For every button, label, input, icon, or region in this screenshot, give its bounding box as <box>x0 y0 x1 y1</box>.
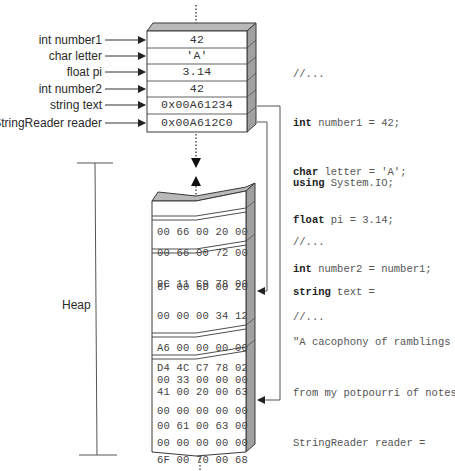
heap-label: Heap <box>62 298 91 312</box>
stack-cell-number1: 42 <box>147 33 247 46</box>
stack-label-pi: float pi <box>67 65 102 79</box>
stack-label-text: string text <box>50 98 102 112</box>
stack-label-reader: StringReader reader <box>0 116 102 130</box>
heap-bracket-line <box>95 163 97 455</box>
code-block-using: using System.IO; <box>293 153 394 201</box>
stack-cell-number2: 42 <box>147 82 247 95</box>
stack-cell-reader: 0x00A612C0 <box>147 116 247 129</box>
stack-cell-pi: 3.14 <box>147 65 247 78</box>
code-block-string: //... string text = "A cacophony of ramb… <box>293 200 455 471</box>
stack-cell-letter: 'A' <box>147 49 247 62</box>
stack-label-number1: int number1 <box>39 33 102 47</box>
reader-pointer-arrow <box>257 122 267 291</box>
text-pointer-arrow <box>257 106 280 400</box>
stack-top-face <box>147 23 256 31</box>
stack-label-letter: char letter <box>49 49 102 63</box>
heap-block-5: 41 00 20 00 63 00 61 00 63 00 6F 00 70 0… <box>157 365 248 471</box>
stack-label-number2: int number2 <box>39 82 102 96</box>
stack-side-face <box>247 23 256 132</box>
stack-cell-text: 0x00A61234 <box>147 98 247 111</box>
